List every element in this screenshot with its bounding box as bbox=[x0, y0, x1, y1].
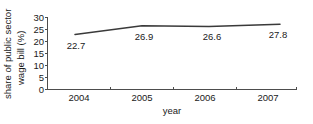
x-tick-label-2007: 2007 bbox=[257, 92, 278, 103]
y-axis-label-line1: share of public sector bbox=[2, 9, 13, 99]
y-tick-label-15: 15 bbox=[33, 48, 44, 59]
line-chart: share of public sector wage bill (%) 30 … bbox=[0, 0, 313, 124]
y-axis-label-line2: wage bill (%) bbox=[15, 31, 26, 86]
x-tick-label-2006: 2006 bbox=[194, 92, 215, 103]
y-tick-label-25: 25 bbox=[33, 24, 44, 35]
data-label-2005: 26.9 bbox=[135, 31, 154, 42]
data-label-2007: 27.8 bbox=[269, 29, 288, 40]
y-tick-label-20: 20 bbox=[33, 36, 44, 47]
y-tick-label-0: 0 bbox=[39, 84, 44, 95]
series-line-share-of-public-sector-wage-bill bbox=[75, 24, 280, 34]
x-axis-label: year bbox=[163, 105, 181, 116]
x-tick-label-2004: 2004 bbox=[68, 92, 89, 103]
y-tick-label-5: 5 bbox=[39, 72, 44, 83]
data-label-2004: 22.7 bbox=[67, 40, 86, 51]
data-label-2006: 26.6 bbox=[203, 31, 222, 42]
y-tick-label-30: 30 bbox=[33, 12, 44, 23]
x-tick-label-2005: 2005 bbox=[131, 92, 152, 103]
chart-container: share of public sector wage bill (%) 30 … bbox=[0, 0, 313, 124]
y-tick-label-10: 10 bbox=[33, 60, 44, 71]
